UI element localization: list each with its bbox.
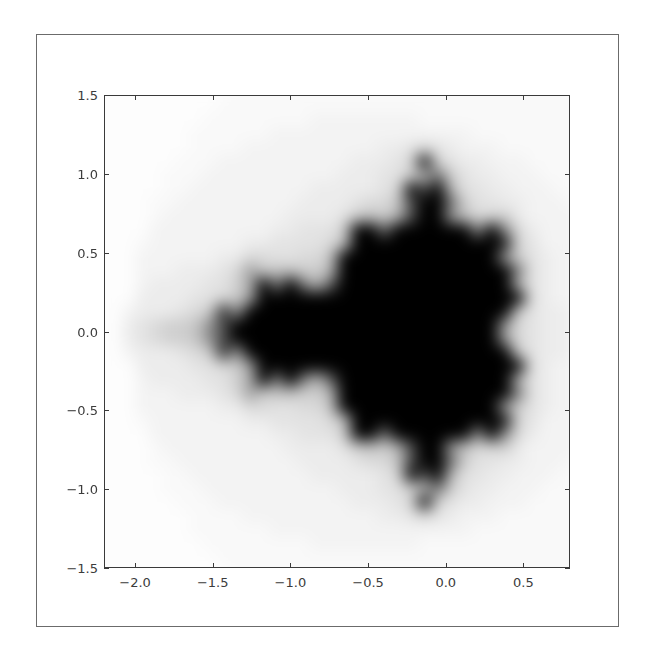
x-tick-mark xyxy=(523,563,524,568)
x-tick-label: 0.0 xyxy=(435,575,456,590)
x-tick-mark xyxy=(446,95,447,100)
y-tick-mark xyxy=(104,568,109,569)
plot-area xyxy=(104,95,570,568)
x-tick-mark xyxy=(135,563,136,568)
y-tick-label: −1.0 xyxy=(38,482,98,497)
x-tick-mark xyxy=(290,563,291,568)
y-tick-mark xyxy=(565,332,570,333)
x-tick-mark xyxy=(213,95,214,100)
y-tick-mark xyxy=(565,174,570,175)
y-tick-mark xyxy=(104,489,109,490)
x-tick-label: 0.5 xyxy=(513,575,534,590)
y-tick-label: 0.0 xyxy=(38,324,98,339)
y-tick-mark xyxy=(104,253,109,254)
x-tick-label: −2.0 xyxy=(119,575,151,590)
y-tick-mark xyxy=(565,568,570,569)
y-tick-label: 0.5 xyxy=(38,245,98,260)
mandelbrot-heatmap xyxy=(104,95,570,568)
x-tick-mark xyxy=(446,563,447,568)
y-tick-mark xyxy=(104,332,109,333)
y-tick-label: −1.5 xyxy=(38,561,98,576)
y-tick-mark xyxy=(565,410,570,411)
y-tick-mark xyxy=(565,489,570,490)
y-tick-label: 1.5 xyxy=(38,88,98,103)
y-tick-label: −0.5 xyxy=(38,403,98,418)
y-tick-mark xyxy=(104,410,109,411)
y-tick-mark xyxy=(104,95,109,96)
y-tick-mark xyxy=(104,174,109,175)
x-tick-mark xyxy=(290,95,291,100)
x-tick-label: −1.5 xyxy=(197,575,229,590)
x-tick-mark xyxy=(368,563,369,568)
x-tick-mark xyxy=(135,95,136,100)
x-tick-label: −1.0 xyxy=(275,575,307,590)
y-tick-mark xyxy=(565,95,570,96)
y-tick-label: 1.0 xyxy=(38,166,98,181)
x-tick-label: −0.5 xyxy=(352,575,384,590)
x-tick-mark xyxy=(213,563,214,568)
y-tick-mark xyxy=(565,253,570,254)
x-tick-mark xyxy=(523,95,524,100)
x-tick-mark xyxy=(368,95,369,100)
